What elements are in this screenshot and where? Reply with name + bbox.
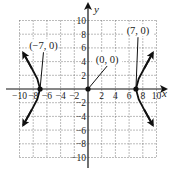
- y-tick-label: 8: [81, 30, 86, 40]
- y-tick-label: −6: [76, 126, 86, 136]
- annotation-leader-line: [40, 52, 43, 89]
- y-axis-label: y: [93, 3, 99, 15]
- annotation-label-vertex: (−7, 0): [29, 40, 58, 52]
- x-tick-label: 8: [140, 91, 145, 101]
- arrow-head-icon: [23, 53, 32, 69]
- x-tick-label: −6: [42, 91, 52, 101]
- hyperbola-graph: −10−8−6−4−2246810108642−2−4−6−8−10 (−7, …: [0, 0, 172, 173]
- y-tick-label: −8: [76, 139, 86, 149]
- x-tick-label: 6: [127, 91, 132, 101]
- y-tick-label: 10: [77, 16, 87, 26]
- y-tick-label: −4: [76, 112, 86, 122]
- y-tick-label: −2: [76, 98, 86, 108]
- x-tick-label: −4: [56, 91, 66, 101]
- arrow-head-icon: [144, 110, 153, 126]
- y-tick-label: 2: [81, 71, 86, 81]
- x-axis-label: x: [161, 87, 167, 99]
- y-tick-label: 4: [81, 57, 86, 67]
- x-tick-label: 10: [152, 91, 162, 101]
- y-tick-label: −10: [71, 153, 86, 163]
- x-tick-label: 4: [113, 91, 118, 101]
- annotation-leader-line: [88, 66, 107, 89]
- x-tick-label: −10: [12, 91, 27, 101]
- x-tick-label: 2: [99, 91, 104, 101]
- arrow-head-icon: [23, 110, 32, 126]
- annotation-label-vertex: (7, 0): [127, 25, 150, 37]
- arrow-head-icon: [144, 53, 153, 69]
- annotation-label-center: (0, 0): [96, 54, 119, 66]
- y-tick-label: 6: [81, 43, 86, 53]
